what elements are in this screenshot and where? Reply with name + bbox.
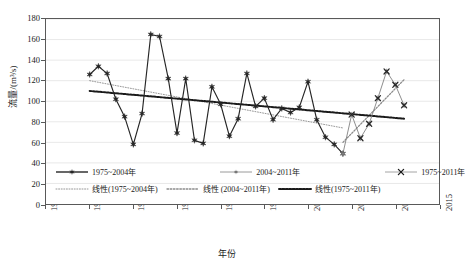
- legend-item-label: 1975~2011年: [421, 166, 465, 177]
- data-point-marker: [244, 70, 249, 76]
- trendline: [90, 91, 404, 119]
- legend-symbol-line-dot-gray: [219, 167, 253, 177]
- x-axis-tick-mark: [45, 205, 46, 209]
- y-axis-tick-label: 160: [0, 35, 40, 44]
- data-point-marker: [288, 109, 293, 115]
- legend-row-series: 1975~2004年2004~2011年1975~2011年: [55, 163, 435, 180]
- legend-item-label: 线性(1975~2011年): [315, 183, 380, 194]
- y-axis-tick-label: 0: [0, 201, 40, 210]
- trendline: [90, 81, 343, 128]
- x-axis-title: 年份: [0, 247, 453, 260]
- legend-item[interactable]: 线性(1975~2004年): [55, 183, 158, 194]
- legend-symbol-line-x-black: [384, 167, 418, 177]
- x-axis-tick-mark: [308, 205, 309, 209]
- y-axis-tick-label: 80: [0, 118, 40, 127]
- x-axis-tick-mark: [352, 205, 353, 209]
- data-point-marker: [227, 133, 232, 139]
- chart-legend: 1975~2004年2004~2011年1975~2011年 线性(1975~2…: [55, 163, 435, 197]
- x-axis-tick-mark: [133, 205, 134, 209]
- data-point-marker: [305, 79, 310, 85]
- legend-symbol-bold-dotted-black: [278, 184, 312, 194]
- legend-item[interactable]: 线性(1975~2011年): [278, 183, 380, 194]
- data-point-marker: [139, 110, 144, 116]
- x-axis-tick-mark: [221, 205, 222, 209]
- y-axis-tick-label: 140: [0, 56, 40, 65]
- y-axis-tick-label: 40: [0, 159, 40, 168]
- x-axis-tick-mark: [177, 205, 178, 209]
- data-point-marker: [209, 84, 214, 90]
- legend-item[interactable]: 2004~2011年: [219, 166, 300, 177]
- y-axis-tick-label: 100: [0, 97, 40, 106]
- legend-item-label: 线性 (2004~2011年): [203, 183, 270, 194]
- legend-item[interactable]: 1975~2004年: [55, 166, 136, 177]
- y-axis-tick-label: 120: [0, 76, 40, 85]
- x-axis-tick-label: 2015: [444, 194, 454, 211]
- data-point-marker: [235, 116, 240, 122]
- legend-row-trendlines: 线性(1975~2004年)线性 (2004~2011年)线性(1975~201…: [55, 180, 435, 197]
- x-axis-tick-mark: [89, 205, 90, 209]
- legend-symbol-line-star-black: [55, 167, 89, 177]
- legend-item[interactable]: 线性 (2004~2011年): [166, 183, 270, 194]
- legend-item[interactable]: 1975~2011年: [384, 166, 465, 177]
- x-axis-tick-mark: [440, 205, 441, 209]
- legend-item-label: 线性(1975~2004年): [92, 183, 158, 194]
- legend-symbol-dotted-gray: [166, 184, 200, 194]
- data-point-marker: [174, 130, 179, 136]
- y-axis-tick-label: 20: [0, 180, 40, 189]
- legend-symbol-fine-dotted-gray: [55, 184, 89, 194]
- x-axis-tick-mark: [264, 205, 265, 209]
- y-axis-tick-label: 180: [0, 14, 40, 23]
- data-point-marker: [122, 114, 127, 120]
- x-axis-tick-mark: [396, 205, 397, 209]
- data-point-marker: [201, 140, 206, 146]
- series-line: [352, 71, 404, 138]
- y-axis-tick-label: 60: [0, 139, 40, 148]
- legend-item-label: 1975~2004年: [92, 166, 136, 177]
- legend-item-label: 2004~2011年: [256, 166, 300, 177]
